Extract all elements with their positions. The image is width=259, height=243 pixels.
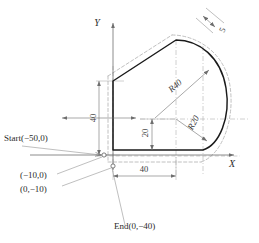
point-0-neg10-label: (0,−10) (20, 184, 47, 194)
drawing-background (0, 0, 259, 243)
dimension-height-20-text: 20 (140, 129, 150, 138)
end-point-label: End(0,−40) (114, 221, 155, 231)
point-neg10-0-label: (−10,0) (20, 170, 47, 180)
x-axis-label: X (228, 158, 236, 169)
dimension-width-40-text: 40 (140, 164, 149, 174)
start-point-label: Start(−50,0) (4, 133, 48, 143)
technical-drawing-canvas: Y X 40 20 40 5 R40 R20 (0, 0, 259, 243)
marker-0-neg10 (111, 164, 115, 168)
marker-neg10-0 (102, 153, 106, 157)
dimension-height-40-text: 40 (88, 114, 98, 123)
